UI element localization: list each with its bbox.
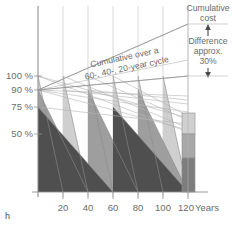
y-tick-label-100: 100 % xyxy=(6,70,33,81)
x-tick-label-60: 60 xyxy=(108,202,119,213)
x-tick-label-100: 100 xyxy=(155,202,171,213)
bar-segment-dark xyxy=(182,158,195,192)
cumulative-cost-bar xyxy=(182,113,195,192)
x-tick-label-80: 80 xyxy=(133,202,144,213)
arrow-down-icon xyxy=(205,68,211,78)
y-tick-label-90: 90 % xyxy=(11,84,33,95)
cumulative-cost-line-1: Cumulative xyxy=(187,3,230,13)
annotation-difference: Difference approx. 30% xyxy=(188,24,227,78)
x-tick-label-40: 40 xyxy=(83,202,94,213)
x-axis-unit-label: Years xyxy=(195,202,219,213)
difference-line-1: Difference xyxy=(188,36,227,46)
y-tick-label-50: 50 % xyxy=(11,128,33,139)
x-tick-label-20: 20 xyxy=(58,202,69,213)
arrow-up-icon xyxy=(205,24,211,36)
bar-segment-medium xyxy=(182,134,195,158)
difference-value: 30% xyxy=(199,56,217,66)
annotation-cumulative-cost: Cumulative cost xyxy=(187,3,230,23)
annotation-cycle-label: Cumulative over a 60-, 40-, 20-year cycl… xyxy=(82,43,170,81)
y-tick-label-75: 75 % xyxy=(11,101,33,112)
cumulative-cost-line-2: cost xyxy=(200,13,216,23)
x-tick-label-120: 120 xyxy=(178,202,194,213)
lifecycle-cost-chart: 100 % 90 % 75 % 50 % 20 40 60 80 100 120… xyxy=(0,0,232,227)
x-ticks xyxy=(63,192,188,199)
bar-segment-light xyxy=(182,113,195,134)
figure-container: 100 % 90 % 75 % 50 % 20 40 60 80 100 120… xyxy=(0,0,232,227)
figure-caption-label: h xyxy=(5,211,10,221)
difference-line-2: approx. xyxy=(194,46,223,56)
